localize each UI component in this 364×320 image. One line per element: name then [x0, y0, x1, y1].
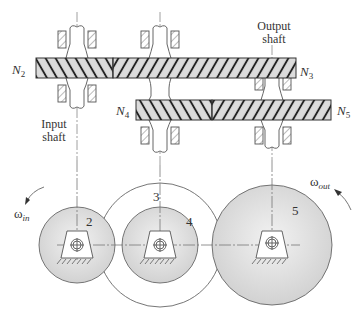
- countershaft: [149, 26, 171, 153]
- label-gear-5: 5: [292, 203, 299, 218]
- label-gear-3: 3: [153, 189, 160, 204]
- label-output-shaft-line2: shaft: [262, 32, 286, 46]
- gear-band-n2-n3: [36, 58, 296, 78]
- label-input-shaft-line2: shaft: [42, 130, 66, 144]
- omega-out-arrow-icon: [334, 189, 351, 210]
- omega-in-arrow-icon: [25, 187, 44, 205]
- label-gear-2: 2: [86, 214, 93, 229]
- label-n3: N3: [299, 64, 314, 81]
- label-omega-in: ωin: [14, 206, 30, 223]
- gear-train-diagram: N2 N3 N4 N5 Input shaft Output shaft: [0, 0, 364, 320]
- label-n4: N4: [115, 103, 130, 120]
- label-n2: N2: [11, 62, 25, 79]
- gear-band-n4-n5: [136, 100, 331, 120]
- label-n5: N5: [336, 103, 351, 120]
- label-input-shaft-line1: Input: [41, 117, 67, 131]
- label-output-shaft-line1: Output: [257, 19, 291, 33]
- label-gear-4: 4: [186, 214, 193, 229]
- label-omega-out: ωout: [310, 174, 331, 191]
